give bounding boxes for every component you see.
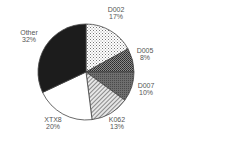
label-xtx8: XTX8 20%: [38, 116, 68, 130]
label-k062-pct: 13%: [102, 123, 132, 130]
label-other: Other 32%: [14, 29, 44, 43]
label-xtx8-pct: 20%: [38, 123, 68, 130]
label-d002-name: D002: [101, 6, 131, 13]
label-other-name: Other: [14, 29, 44, 36]
label-d007-name: D007: [131, 82, 161, 89]
label-d002-pct: 17%: [101, 13, 131, 20]
label-d005: D005 8%: [130, 47, 160, 61]
label-d007-pct: 10%: [131, 89, 161, 96]
label-k062: K062 13%: [102, 116, 132, 130]
label-k062-name: K062: [102, 116, 132, 123]
label-other-pct: 32%: [14, 36, 44, 43]
label-d005-name: D005: [130, 47, 160, 54]
label-xtx8-name: XTX8: [38, 116, 68, 123]
label-d005-pct: 8%: [130, 54, 160, 61]
label-d002: D002 17%: [101, 6, 131, 20]
pie-slices: [38, 24, 134, 120]
label-d007: D007 10%: [131, 82, 161, 96]
